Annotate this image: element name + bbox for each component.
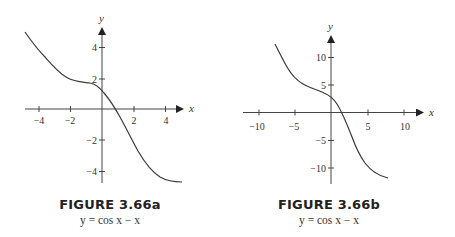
figure-a-x-tick-label: 4 [164,115,169,126]
figure-a-x-tick-label: −2 [65,115,76,126]
figure-b-x-tick-label: −5 [289,121,300,132]
figure-b-equation: y = cos x − x [249,214,409,226]
figure-a-y-tick-label: 2 [92,74,97,85]
figure-b-y-axis-label: y [327,20,333,32]
figure-b-x-tick-label: −10 [249,121,265,132]
figure-a-y-tick-label: 4 [92,42,97,53]
figure-b-y-tick-label: −5 [315,135,326,146]
figure-b-title: FIGURE 3.66b [249,197,409,212]
figure-b-y-tick-label: 5 [321,80,326,91]
figure-a-equation: y = cos x − x [30,214,190,226]
figure-a-y-axis-label: y [98,12,104,24]
figure-b-x-tick-label: 10 [400,121,410,132]
figure-b-plot: −10 −5 5 10 10 5 −5 −10 x y [243,20,434,184]
figure-a-title: FIGURE 3.66a [30,197,190,212]
figure-b-y-tick-label: 10 [316,52,326,63]
figure-a-plot: −4 −2 2 4 4 2 −2 −4 x y [25,12,194,183]
figure-a-x-tick-label: 2 [132,115,137,126]
figure-a-y-tick-label: −2 [86,135,97,146]
figure-a-x-tick-label: −4 [34,115,45,126]
figure-b-x-tick-label: 5 [366,121,371,132]
figure-a-y-tick-label: −4 [86,166,97,177]
figure-b-y-tick-label: −10 [310,163,326,174]
figure-a-x-axis-label: x [188,102,194,114]
figure-a-curve [25,32,182,182]
figure-b-x-axis-label: x [428,106,434,118]
